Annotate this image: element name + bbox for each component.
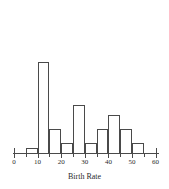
histogram-bar	[49, 129, 61, 154]
histogram-bar	[97, 129, 109, 154]
x-axis-tick-label: 60	[147, 158, 165, 167]
x-axis-tick-label: 0	[5, 158, 23, 167]
histogram-bar	[108, 115, 120, 154]
x-axis-title: Birth Rate	[0, 172, 169, 182]
x-axis-tick-label: 20	[52, 158, 70, 167]
x-axis-tick-label: 30	[76, 158, 94, 167]
histogram-chart: 0102030405060 Birth Rate	[0, 0, 169, 189]
x-axis-tick-label: 50	[123, 158, 141, 167]
x-axis-tick-label: 40	[99, 158, 117, 167]
x-axis-line	[13, 153, 159, 154]
histogram-bar	[73, 105, 85, 154]
x-axis-tick-label: 10	[29, 158, 47, 167]
histogram-bar	[120, 129, 132, 154]
plot-area: 0102030405060	[0, 0, 169, 189]
histogram-bar	[38, 62, 50, 154]
